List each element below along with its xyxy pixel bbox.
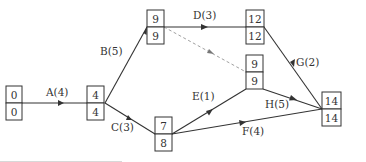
label-b: B(5) <box>100 45 123 57</box>
arrow-c-icon <box>126 115 132 120</box>
label-e: E(1) <box>192 90 215 102</box>
node-n6-latest: 8 <box>160 137 167 149</box>
network-diagram: A(4) B(5) C(3) D(3) E(1) F(4) G(2) H(5) … <box>0 0 366 162</box>
node-n7-latest: 14 <box>325 112 339 124</box>
arrow-d-icon <box>201 24 208 30</box>
divider <box>0 161 122 162</box>
node-n4-latest: 12 <box>248 30 261 42</box>
label-f: F(4) <box>242 125 264 137</box>
arrow-dummy-icon <box>207 49 214 54</box>
edge-dummy <box>164 27 246 72</box>
activity-labels: A(4) B(5) C(3) D(3) E(1) F(4) G(2) H(5) <box>45 9 319 137</box>
edge-b <box>105 27 147 103</box>
label-h: H(5) <box>265 98 289 110</box>
node-n2-latest: 4 <box>92 106 99 118</box>
node-n1-latest: 0 <box>11 106 18 118</box>
node-n7-earliest: 14 <box>325 95 339 107</box>
node-n6: 7 8 <box>155 117 172 151</box>
node-n5-earliest: 9 <box>251 58 258 70</box>
arrow-h-icon <box>289 95 297 101</box>
arrow-b-icon <box>144 27 148 35</box>
node-n3: 9 9 <box>147 10 164 44</box>
arrow-g-icon <box>290 59 295 67</box>
node-n5: 9 9 <box>246 55 263 89</box>
node-n4: 12 12 <box>246 10 264 44</box>
arrow-e-icon <box>206 109 213 116</box>
node-n5-latest: 9 <box>251 75 258 87</box>
node-n4-earliest: 12 <box>248 13 261 25</box>
node-n1-earliest: 0 <box>11 89 18 101</box>
label-c: C(3) <box>111 121 134 133</box>
arrow-a-icon <box>58 100 64 106</box>
node-n7: 14 14 <box>322 92 341 126</box>
node-n3-latest: 9 <box>152 30 159 42</box>
label-g: G(2) <box>296 56 319 68</box>
node-n6-earliest: 7 <box>160 120 167 132</box>
label-d: D(3) <box>193 9 216 21</box>
node-n2-earliest: 4 <box>92 89 99 101</box>
node-n1: 0 0 <box>6 86 22 120</box>
node-n3-earliest: 9 <box>152 13 159 25</box>
label-a: A(4) <box>45 86 68 98</box>
node-n2: 4 4 <box>87 86 104 120</box>
